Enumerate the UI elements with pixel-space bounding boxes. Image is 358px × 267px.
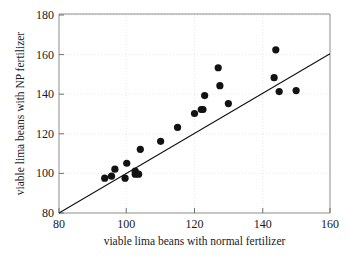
xtick-label-80: 80 — [53, 217, 65, 231]
x-axis-label: viable lima beans with normal fertilizer — [104, 235, 286, 247]
data-point — [276, 88, 283, 95]
xtick-label-100: 100 — [117, 217, 135, 231]
scatter-plot-figure: 180 160 140 120 100 80 80 100 120 140 16… — [0, 0, 358, 267]
xtick-label-160: 160 — [321, 217, 339, 231]
ytick-label-160: 160 — [36, 48, 54, 62]
y-axis-label: viable lima beans with NP fertilizer — [14, 32, 26, 196]
data-point — [225, 100, 232, 107]
data-point — [111, 166, 118, 173]
data-point — [174, 124, 181, 131]
ytick-label-120: 120 — [36, 127, 54, 141]
y-tick-labels: 180 160 140 120 100 80 — [36, 8, 54, 220]
data-point — [123, 160, 130, 167]
xtick-label-120: 120 — [186, 217, 204, 231]
ytick-label-180: 180 — [36, 8, 54, 22]
data-point — [121, 175, 128, 182]
xtick-label-140: 140 — [254, 217, 272, 231]
data-point — [135, 171, 142, 178]
data-point — [272, 46, 279, 53]
data-point — [137, 146, 144, 153]
plot-canvas: 180 160 140 120 100 80 80 100 120 140 16… — [0, 0, 358, 267]
data-point — [101, 175, 108, 182]
data-point — [215, 64, 222, 71]
data-point — [271, 74, 278, 81]
data-point — [201, 92, 208, 99]
data-point — [157, 138, 164, 145]
data-point — [191, 110, 198, 117]
data-point — [216, 82, 223, 89]
x-tick-labels: 80 100 120 140 160 — [53, 217, 339, 231]
ytick-label-140: 140 — [36, 87, 54, 101]
ytick-label-100: 100 — [36, 166, 54, 180]
data-point — [199, 106, 206, 113]
data-point — [108, 173, 115, 180]
data-point — [293, 87, 300, 94]
